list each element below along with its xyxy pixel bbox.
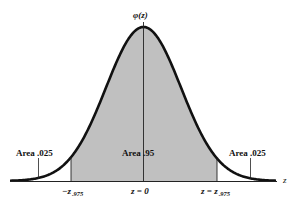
left-critical-value-label: −z.975 — [62, 187, 83, 196]
right-critical-subscript: .975 — [219, 190, 230, 197]
right-critical-value-label: z = z.975 — [201, 187, 230, 196]
center-area-label: Area .95 — [122, 149, 154, 158]
right-tail-area-label: Area .025 — [229, 149, 266, 158]
x-axis-label: z — [283, 176, 287, 185]
center-tick-label: z = 0 — [131, 187, 149, 196]
right-critical-prefix: z = z — [201, 186, 218, 196]
left-critical-prefix: −z — [62, 186, 71, 196]
y-axis-label: φ(z) — [133, 11, 148, 20]
left-critical-subscript: .975 — [72, 190, 83, 197]
left-tail-area-label: Area .025 — [16, 149, 53, 158]
normal-curve-diagram — [0, 0, 295, 209]
